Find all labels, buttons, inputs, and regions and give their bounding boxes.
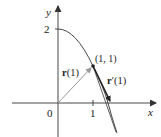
x-tick-label-1: 1 <box>90 107 96 119</box>
tangent-vector-label-arg: ′(1) <box>112 75 127 87</box>
origin-label: 0 <box>47 107 53 119</box>
position-vector-label-arg: (1) <box>67 67 80 79</box>
x-axis-label: x <box>147 106 153 118</box>
y-axis-label: y <box>45 6 51 18</box>
y-tick-label-2: 2 <box>44 23 50 35</box>
diagram-canvas: y x 2 0 1 (1, 1) r(1) r′(1) <box>0 0 161 137</box>
point-label: (1, 1) <box>95 53 117 65</box>
point-1-1 <box>91 64 95 68</box>
tangent-vector-label: r′(1) <box>107 75 127 87</box>
position-vector-label: r(1) <box>62 67 79 79</box>
